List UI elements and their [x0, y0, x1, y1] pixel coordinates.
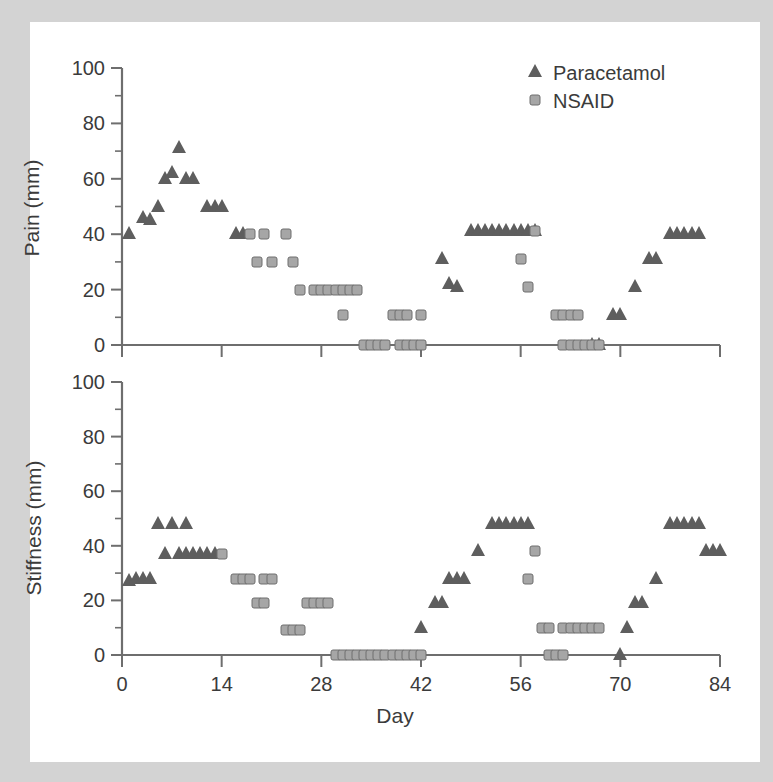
point-nsaid: [401, 309, 412, 320]
point-paracetamol: [143, 212, 157, 225]
point-paracetamol: [172, 140, 186, 153]
ytick-label-pain-60: 60: [55, 167, 105, 190]
point-nsaid: [252, 256, 263, 267]
legend-marker-nsaid: [530, 95, 541, 106]
ytick-label-pain-80: 80: [55, 112, 105, 135]
point-nsaid: [323, 598, 334, 609]
point-nsaid: [529, 546, 540, 557]
point-paracetamol: [414, 620, 428, 633]
point-nsaid: [259, 229, 270, 240]
point-paracetamol: [450, 279, 464, 292]
xtick-label-28: 28: [310, 673, 332, 696]
point-paracetamol: [649, 251, 663, 264]
xtick-label-70: 70: [609, 673, 631, 696]
point-nsaid: [522, 573, 533, 584]
point-nsaid: [294, 284, 305, 295]
ytick-label-pain-20: 20: [55, 278, 105, 301]
ytick-label-stiffness-20: 20: [55, 589, 105, 612]
point-nsaid: [380, 340, 391, 351]
point-paracetamol: [713, 543, 727, 556]
ytick-label-pain-100: 100: [55, 57, 105, 80]
legend-marker-paracetamol: [528, 64, 542, 77]
point-nsaid: [593, 340, 604, 351]
point-paracetamol: [179, 516, 193, 529]
point-paracetamol: [471, 543, 485, 556]
xtick-label-56: 56: [510, 673, 532, 696]
point-nsaid: [572, 309, 583, 320]
point-paracetamol: [122, 226, 136, 239]
point-nsaid: [351, 284, 362, 295]
ylabel-stiffness: Stiffness (mm): [22, 461, 46, 596]
point-paracetamol: [620, 620, 634, 633]
point-nsaid: [287, 256, 298, 267]
scatter-figure: [0, 0, 773, 782]
ytick-label-pain-0: 0: [55, 334, 105, 357]
xlabel-day: Day: [376, 704, 413, 728]
point-paracetamol: [628, 279, 642, 292]
point-nsaid: [529, 226, 540, 237]
point-nsaid: [544, 622, 555, 633]
point-paracetamol: [435, 595, 449, 608]
ytick-label-stiffness-80: 80: [55, 425, 105, 448]
point-nsaid: [245, 229, 256, 240]
xtick-label-0: 0: [116, 673, 127, 696]
point-paracetamol: [151, 516, 165, 529]
point-paracetamol: [521, 516, 535, 529]
point-paracetamol: [692, 516, 706, 529]
point-nsaid: [337, 309, 348, 320]
point-paracetamol: [143, 570, 157, 583]
legend-label-paracetamol: Paracetamol: [553, 62, 665, 85]
point-nsaid: [416, 340, 427, 351]
point-nsaid: [416, 309, 427, 320]
point-paracetamol: [215, 198, 229, 211]
point-nsaid: [216, 548, 227, 559]
ylabel-pain: Pain (mm): [20, 160, 44, 257]
point-nsaid: [515, 254, 526, 265]
point-nsaid: [416, 650, 427, 661]
point-paracetamol: [613, 306, 627, 319]
point-paracetamol: [165, 165, 179, 178]
xtick-label-14: 14: [211, 673, 233, 696]
point-paracetamol: [186, 171, 200, 184]
ytick-label-stiffness-60: 60: [55, 480, 105, 503]
point-paracetamol: [158, 546, 172, 559]
point-nsaid: [522, 281, 533, 292]
point-nsaid: [266, 256, 277, 267]
xtick-label-42: 42: [410, 673, 432, 696]
point-paracetamol: [649, 570, 663, 583]
ytick-label-stiffness-0: 0: [55, 644, 105, 667]
point-paracetamol: [151, 198, 165, 211]
point-paracetamol: [165, 516, 179, 529]
figure-page: 0204060801000204060801000142842567084Pai…: [0, 0, 773, 782]
point-paracetamol: [435, 251, 449, 264]
point-nsaid: [558, 650, 569, 661]
point-paracetamol: [692, 226, 706, 239]
ytick-label-pain-40: 40: [55, 223, 105, 246]
point-paracetamol: [613, 647, 627, 660]
point-paracetamol: [457, 570, 471, 583]
ytick-label-stiffness-40: 40: [55, 534, 105, 557]
point-nsaid: [259, 598, 270, 609]
ytick-label-stiffness-100: 100: [55, 371, 105, 394]
point-nsaid: [280, 229, 291, 240]
point-nsaid: [593, 622, 604, 633]
legend-label-nsaid: NSAID: [553, 90, 614, 113]
point-nsaid: [294, 625, 305, 636]
point-nsaid: [266, 573, 277, 584]
point-nsaid: [245, 573, 256, 584]
point-paracetamol: [635, 595, 649, 608]
xtick-label-84: 84: [709, 673, 731, 696]
